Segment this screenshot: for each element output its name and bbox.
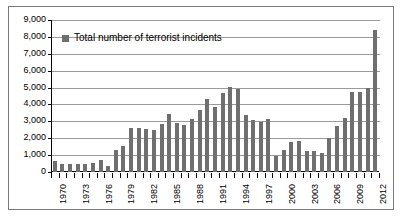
bar	[373, 30, 377, 172]
bar	[244, 115, 248, 172]
y-axis-labels: 9,0008,0007,0006,0005,0004,0003,0002,000…	[0, 20, 46, 172]
bar	[152, 130, 156, 172]
bar	[305, 151, 309, 172]
bar	[289, 142, 293, 172]
bar	[106, 166, 110, 172]
x-axis-tick-label: 2012	[379, 184, 388, 204]
bar	[182, 125, 186, 172]
bar	[99, 160, 103, 172]
bar	[114, 150, 118, 172]
x-axis-tick-label: 1979	[127, 184, 136, 204]
chart-legend: Total number of terrorist incidents	[62, 33, 222, 43]
x-axis-tick-label: 2003	[311, 184, 320, 204]
bar	[282, 150, 286, 172]
y-axis-tick-label: 9,000	[4, 15, 46, 24]
bar	[236, 89, 240, 172]
bar	[312, 151, 316, 172]
y-axis-tick-label: 3,000	[4, 116, 46, 125]
bar	[320, 153, 324, 172]
x-axis-tick-label: 1970	[59, 184, 68, 204]
bar	[137, 128, 141, 172]
x-axis-tick-label: 1991	[219, 184, 228, 204]
y-axis-tick-label: 7,000	[4, 49, 46, 58]
x-axis-tick-label: 1985	[173, 184, 182, 204]
legend-label: Total number of terrorist incidents	[74, 33, 222, 43]
bar	[297, 141, 301, 172]
bar	[205, 99, 209, 172]
bar	[343, 118, 347, 172]
bar	[76, 164, 80, 172]
x-axis-tick-label: 1997	[265, 184, 274, 204]
x-axis-tick-label: 1988	[196, 184, 205, 204]
bar	[53, 161, 57, 172]
bar	[83, 164, 87, 172]
bar	[251, 120, 255, 172]
x-axis-tick-label: 2006	[333, 184, 342, 204]
bar	[228, 87, 232, 172]
bar	[213, 107, 217, 172]
bar	[121, 146, 125, 172]
bar	[175, 123, 179, 172]
bar	[198, 110, 202, 172]
x-axis-tick-label: 1976	[105, 184, 114, 204]
bar	[335, 126, 339, 172]
y-axis-tick-label: 4,000	[4, 99, 46, 108]
bar	[190, 119, 194, 172]
bar	[144, 129, 148, 172]
y-axis-tick-label: 5,000	[4, 83, 46, 92]
bar	[366, 88, 370, 172]
x-axis-labels: 1970197319761979198219851988199119941997…	[51, 178, 379, 218]
bar	[327, 138, 331, 172]
y-axis-tick-label: 6,000	[4, 66, 46, 75]
bar	[160, 124, 164, 172]
bar	[274, 156, 278, 172]
bar	[259, 122, 263, 172]
legend-swatch-icon	[62, 35, 69, 42]
y-axis-tick-label: 1,000	[4, 150, 46, 159]
x-axis-tick-label: 2009	[356, 184, 365, 204]
x-axis-tick-label: 1994	[242, 184, 251, 204]
y-axis-tick-label: 0	[4, 167, 46, 176]
x-axis-tick-label: 2000	[288, 184, 297, 204]
bar	[221, 93, 225, 172]
bar	[350, 92, 354, 172]
bar	[266, 119, 270, 172]
bar	[60, 164, 64, 172]
y-axis-tick-label: 8,000	[4, 32, 46, 41]
bar	[91, 163, 95, 172]
bar	[68, 164, 72, 172]
x-axis-tick-label: 1982	[150, 184, 159, 204]
y-axis-tick-label: 2,000	[4, 133, 46, 142]
x-tick-mark	[379, 173, 380, 178]
bar	[358, 92, 362, 172]
bar	[129, 128, 133, 172]
x-axis-tick-label: 1973	[82, 184, 91, 204]
bar	[167, 114, 171, 172]
terrorist-incidents-bar-chart: 9,0008,0007,0006,0005,0004,0003,0002,000…	[0, 0, 405, 224]
